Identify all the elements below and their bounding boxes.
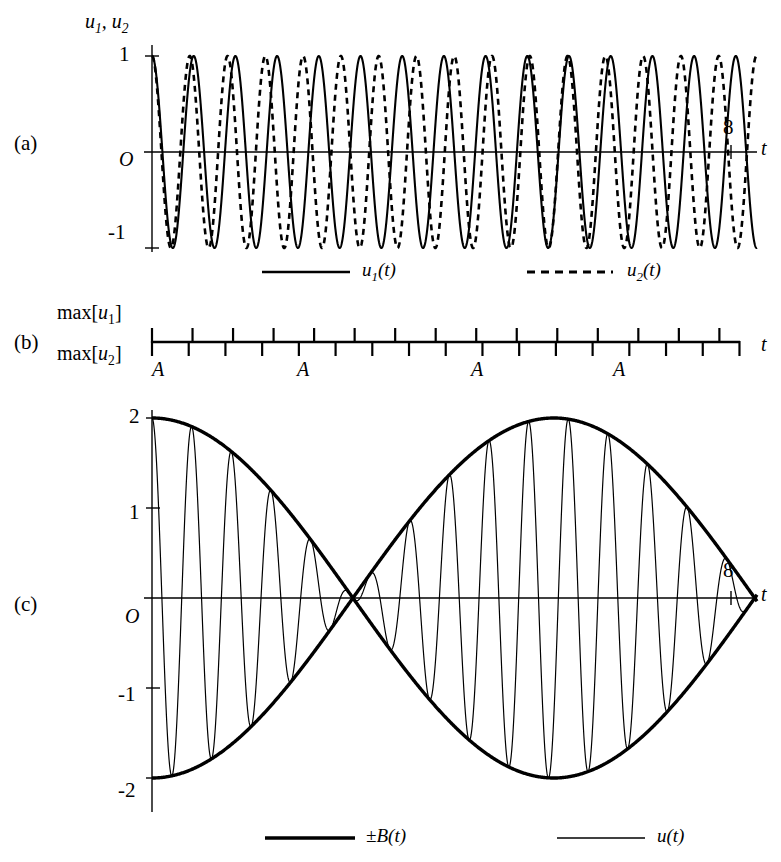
beats-figure: (a) u1, u2 1 -1 O 8 t u1(t) u2(t) (b) [0,0,781,862]
legend-a-label-u2: u2(t) [627,259,661,285]
panel-c-axes [144,410,757,812]
legend-c-label-u: u(t) [657,825,684,847]
legend-c-label-envelope: ±B(t) [366,825,406,847]
panel-b-timeline [0,320,781,380]
panel-b-coincidence-label-1: A [152,358,164,381]
panel-b-coincidence-label-2: A [297,358,309,381]
legend-a-label-u1: u1(t) [362,259,396,285]
panel-b-coincidence-label-4: A [613,358,625,381]
panel-a-axes [144,45,757,252]
panel-c-plot [0,400,781,820]
panel-b-coincidence-label-3: A [471,358,483,381]
